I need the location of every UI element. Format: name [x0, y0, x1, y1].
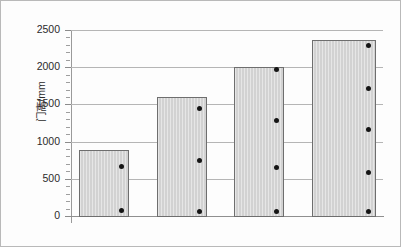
- tick-minor: [66, 112, 70, 113]
- tick-minor: [66, 201, 70, 202]
- bar: [157, 97, 207, 217]
- tick-minor: [66, 149, 70, 150]
- tick-minor: [66, 97, 70, 98]
- tick-minor: [66, 45, 70, 46]
- tick-minor: [66, 156, 70, 157]
- data-point: [197, 106, 202, 111]
- tick-minor: [66, 186, 70, 187]
- y-tick-label: 2000: [37, 61, 60, 71]
- y-tick-label: 1000: [37, 136, 60, 146]
- tick-major: [65, 216, 71, 217]
- y-tick-label: 500: [42, 173, 60, 183]
- data-point: [197, 158, 202, 163]
- tick-minor: [66, 82, 70, 83]
- tick-minor: [66, 52, 70, 53]
- tick-minor: [66, 164, 70, 165]
- tick-minor: [66, 209, 70, 210]
- data-point: [366, 86, 371, 91]
- tick-minor: [66, 90, 70, 91]
- data-point: [366, 127, 371, 132]
- tick-major: [65, 30, 71, 31]
- data-point: [274, 118, 279, 123]
- y-tick-label: 0: [54, 210, 60, 220]
- data-point: [197, 209, 202, 214]
- bar: [234, 67, 284, 217]
- data-point: [366, 43, 371, 48]
- tick-minor: [66, 127, 70, 128]
- tick-major: [65, 67, 71, 68]
- y-tick-label: 2500: [37, 24, 60, 34]
- tick-major: [65, 104, 71, 105]
- tick-major: [65, 142, 71, 143]
- data-point: [274, 165, 279, 170]
- tick-minor: [66, 194, 70, 195]
- chart-frame: 门高/mm 05001000150020002500: [0, 0, 401, 247]
- tick-minor: [66, 60, 70, 61]
- data-point: [274, 209, 279, 214]
- data-point: [119, 164, 124, 169]
- tick-minor: [66, 119, 70, 120]
- tick-minor: [66, 37, 70, 38]
- y-tick-label: 1500: [37, 98, 60, 108]
- tick-major: [65, 179, 71, 180]
- data-point: [119, 208, 124, 213]
- plot-area: [71, 30, 383, 216]
- tick-minor: [66, 171, 70, 172]
- tick-minor: [66, 134, 70, 135]
- tick-minor: [66, 75, 70, 76]
- bar: [79, 150, 129, 217]
- gridline: [71, 30, 383, 31]
- data-point: [366, 170, 371, 175]
- data-point: [366, 209, 371, 214]
- data-point: [274, 67, 279, 72]
